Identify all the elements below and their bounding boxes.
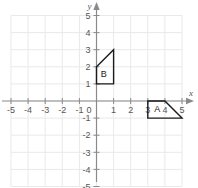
y-tick-label: -1 (82, 113, 90, 123)
x-axis-name: x (188, 88, 193, 98)
x-tick-label: -5 (7, 105, 15, 115)
y-tick-label: -2 (82, 130, 90, 140)
y-axis-name: y (87, 1, 92, 11)
shape-label-a: A (154, 104, 160, 114)
y-tick-label: 4 (85, 28, 90, 38)
y-axis-arrow-icon (93, 2, 99, 10)
y-tick-label: 1 (85, 79, 90, 89)
y-tick-label: -4 (82, 165, 90, 175)
shape-label-b: B (101, 69, 107, 79)
y-tick-label: 5 (85, 11, 90, 21)
x-axis-arrow-icon (186, 98, 194, 104)
x-tick-label: -2 (58, 105, 66, 115)
coordinate-plane-graph: -5-4-3-2-1012345 54321-1-2-3-4-5 AB x y (0, 0, 198, 188)
y-tick-label: -5 (82, 182, 90, 188)
y-tick-label: 3 (85, 45, 90, 55)
x-tick-label: 2 (128, 105, 133, 115)
x-tick-label: 4 (162, 105, 167, 115)
x-tick-label: -4 (24, 105, 32, 115)
x-tick-label: 5 (179, 105, 184, 115)
y-axis-tick-labels: 54321-1-2-3-4-5 (82, 11, 90, 188)
graph-canvas: -5-4-3-2-1012345 54321-1-2-3-4-5 AB x y (0, 0, 198, 188)
x-tick-label: 1 (111, 105, 116, 115)
y-tick-label: 2 (85, 62, 90, 72)
y-tick-label: -3 (82, 148, 90, 158)
x-tick-label: -3 (41, 105, 49, 115)
